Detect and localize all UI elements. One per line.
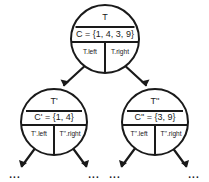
node-root-left-pointer: T.left xyxy=(83,48,97,55)
leaf-ellipsis-3: ... xyxy=(109,169,120,180)
node-left-child-name: T' xyxy=(50,96,57,106)
node-root[interactable]: T C = {1, 4, 3, 9} T.left T.right xyxy=(71,5,139,73)
node-right-child-right-pointer: T''.right xyxy=(160,130,181,138)
edge-right-child-to-leaf-3 xyxy=(119,147,136,168)
node-right-child-set: C'' = {3, 9} xyxy=(134,112,175,122)
node-right-child-name: T'' xyxy=(151,96,160,106)
edge-right-child-to-leaf-4 xyxy=(172,147,189,168)
node-left-child-left-pointer: T'.left xyxy=(31,130,47,137)
node-left-child-right-pointer: T''.right xyxy=(59,130,80,138)
leaf-ellipsis-4: ... xyxy=(188,169,199,180)
node-right-child-left-pointer: T''.left xyxy=(130,130,147,137)
tree-diagram: T C = {1, 4, 3, 9} T.left T.right T' C' … xyxy=(0,0,209,182)
node-left-child[interactable]: T' C' = {1, 4} T'.left T''.right xyxy=(21,89,87,155)
tree-diagram-canvas: T C = {1, 4, 3, 9} T.left T.right T' C' … xyxy=(0,0,209,182)
edge-left-child-to-leaf-2 xyxy=(72,147,89,168)
node-root-set: C = {1, 4, 3, 9} xyxy=(76,29,134,39)
leaf-ellipsis-1: ... xyxy=(9,169,20,180)
node-root-right-pointer: T.right xyxy=(111,48,129,56)
leaf-ellipsis-2: ... xyxy=(88,169,99,180)
node-root-name: T xyxy=(102,12,108,22)
node-left-child-set: C' = {1, 4} xyxy=(34,112,74,122)
leaf-ellipses-group: ... ... ... ... xyxy=(9,169,199,180)
edge-left-child-to-leaf-1 xyxy=(19,147,36,168)
node-right-child[interactable]: T'' C'' = {3, 9} T''.left T''.right xyxy=(122,89,188,155)
